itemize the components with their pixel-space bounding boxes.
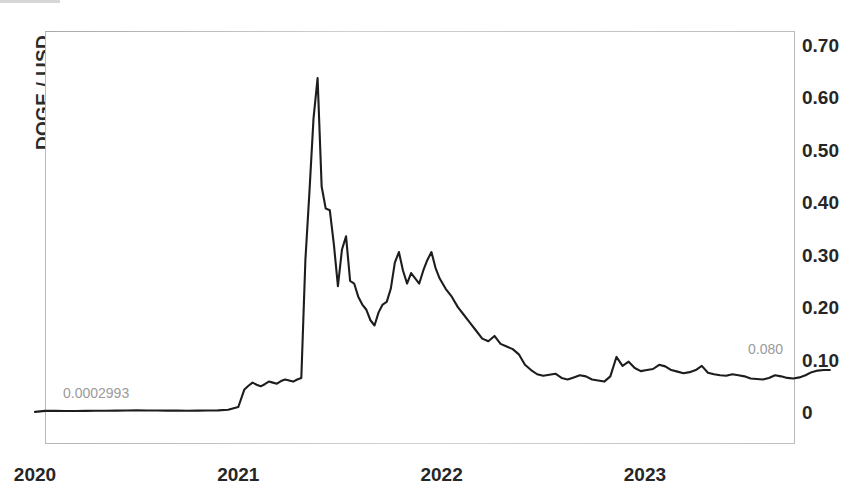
y-axis-tick-labels: 00.100.200.300.400.500.600.70	[802, 0, 862, 503]
x-tick-label: 2022	[420, 465, 462, 484]
x-tick-label: 2020	[14, 465, 56, 484]
annotation-end-value: 0.080	[748, 342, 783, 356]
doge-usd-price-chart: DOGE / USD 00.100.200.300.400.500.600.70…	[0, 0, 862, 503]
x-axis-tick-labels: 2020202120222023	[0, 465, 862, 495]
price-line-series	[45, 31, 795, 444]
y-tick-label: 0	[802, 403, 813, 422]
series-path-doge-usd	[35, 78, 830, 412]
y-tick-label: 0.40	[802, 193, 839, 212]
y-tick-label: 0.60	[802, 88, 839, 107]
y-tick-label: 0.30	[802, 246, 839, 265]
y-tick-label: 0.50	[802, 141, 839, 160]
annotation-start-value: 0.0002993	[63, 386, 129, 400]
y-tick-label: 0.10	[802, 351, 839, 370]
x-tick-label: 2021	[217, 465, 259, 484]
y-tick-label: 0.20	[802, 298, 839, 317]
x-tick-label: 2023	[624, 465, 666, 484]
y-tick-label: 0.70	[802, 36, 839, 55]
